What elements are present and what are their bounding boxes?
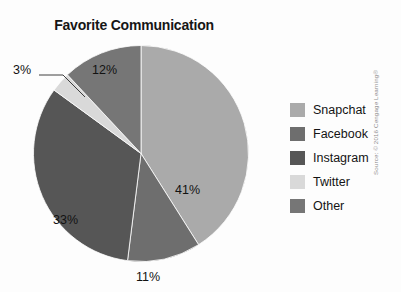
slice-value-twitter: 3% — [13, 63, 31, 77]
legend-swatch-icon — [290, 151, 305, 165]
legend-swatch-icon — [290, 175, 305, 189]
slice-value-facebook: 11% — [136, 270, 160, 284]
legend-swatch-icon — [290, 127, 305, 141]
legend-swatch-icon — [290, 199, 305, 213]
legend-item[interactable]: Other — [290, 194, 390, 218]
twitter-leader-line — [33, 60, 113, 105]
legend-item-label: Twitter — [313, 175, 350, 189]
legend-swatch-icon — [290, 103, 305, 117]
legend-item-label: Facebook — [313, 127, 368, 141]
page-title: Favorite Communication — [0, 17, 268, 33]
legend-item-label: Snapchat — [313, 103, 366, 117]
slice-value-snapchat: 41% — [175, 183, 200, 197]
source-credit: Source: © 2016 Cengage Learning® — [372, 70, 379, 175]
chart-page: Favorite Communication 41% 11% 33% 12% 3… — [0, 0, 401, 292]
legend-item-label: Other — [313, 199, 344, 213]
slice-value-instagram: 33% — [53, 213, 78, 227]
legend-item-label: Instagram — [313, 151, 369, 165]
